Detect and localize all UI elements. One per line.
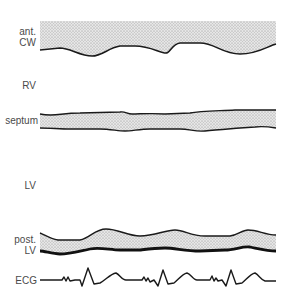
label-lv: LV: [10, 180, 36, 191]
echo-m-mode-diagram: [0, 0, 291, 301]
label-septum: septum: [0, 115, 38, 126]
label-post-lv: LV: [6, 245, 36, 256]
label-ecg: ECG: [6, 275, 37, 286]
label-rv: RV: [10, 80, 36, 91]
ecg-trace: [40, 268, 276, 286]
label-cw: CW: [10, 37, 36, 48]
label-ant: ant.: [10, 26, 36, 37]
label-post: post.: [6, 234, 36, 245]
